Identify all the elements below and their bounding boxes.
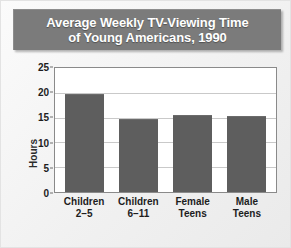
y-tick-label-5: 5 bbox=[27, 162, 49, 173]
bar-children-2-5 bbox=[65, 94, 104, 192]
y-tick-mark-0 bbox=[50, 193, 53, 194]
y-tick-label-15: 15 bbox=[27, 112, 49, 123]
x-tick-label-line-2: Teens bbox=[170, 208, 215, 220]
y-tick-mark-20 bbox=[50, 92, 53, 93]
chart-title-banner: Average Weekly TV-Viewing Time of Young … bbox=[13, 9, 281, 50]
x-tick-label-line-2: 2–5 bbox=[62, 208, 107, 220]
x-tick-label-male-teens: Male Teens bbox=[224, 196, 269, 220]
bar-children-6-11 bbox=[119, 119, 158, 192]
y-tick-label-0: 0 bbox=[27, 188, 49, 199]
x-tick-label-children-2-5: Children 2–5 bbox=[62, 196, 107, 220]
plot-region: Hours 25 20 15 10 5 0 bbox=[11, 56, 283, 241]
x-tick-label-line-1: Female bbox=[175, 196, 209, 207]
bar-series bbox=[55, 68, 276, 192]
x-tick-label-line-1: Children bbox=[118, 196, 159, 207]
chart-title-line-1: Average Weekly TV-Viewing Time bbox=[46, 15, 248, 30]
x-tick-label-line-2: 6–11 bbox=[116, 208, 161, 220]
y-tick-mark-25 bbox=[50, 67, 53, 68]
y-tick-label-20: 20 bbox=[27, 87, 49, 98]
x-tick-label-line-1: Male bbox=[236, 196, 258, 207]
x-tick-label-children-6-11: Children 6–11 bbox=[116, 196, 161, 220]
bar-female-teens bbox=[173, 115, 212, 192]
chart-title-line-2: of Young Americans, 1990 bbox=[68, 30, 226, 45]
x-tick-label-line-2: Teens bbox=[224, 208, 269, 220]
x-tick-label-line-1: Children bbox=[64, 196, 105, 207]
y-tick-label-10: 10 bbox=[27, 137, 49, 148]
y-tick-mark-15 bbox=[50, 117, 53, 118]
y-tick-mark-10 bbox=[50, 142, 53, 143]
x-tick-label-female-teens: Female Teens bbox=[170, 196, 215, 220]
x-axis-tick-labels: Children 2–5 Children 6–11 Female Teens … bbox=[54, 196, 277, 220]
bar-male-teens bbox=[227, 116, 266, 192]
y-axis-tick-labels: 25 20 15 10 5 0 bbox=[27, 67, 49, 193]
plot-area bbox=[54, 67, 277, 193]
y-tick-label-25: 25 bbox=[27, 62, 49, 73]
chart-figure: Average Weekly TV-Viewing Time of Young … bbox=[0, 0, 291, 248]
y-tick-mark-5 bbox=[50, 167, 53, 168]
